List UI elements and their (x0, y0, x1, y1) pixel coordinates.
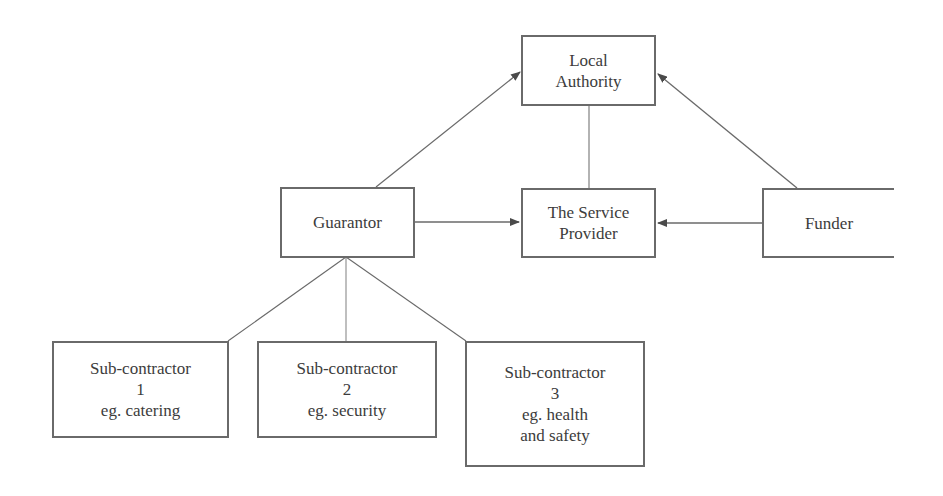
node-sub-contractor-1: Sub-contractor 1 eg. catering (52, 341, 229, 438)
node-label-line: Provider (559, 223, 618, 244)
node-label-line: Funder (805, 213, 853, 234)
edge-guarantor-to-local-authority (376, 72, 520, 187)
node-label-line: Authority (555, 71, 621, 92)
node-label-line: Local (569, 50, 608, 71)
node-label-line: Guarantor (313, 212, 382, 233)
node-service-provider: The Service Provider (521, 188, 656, 258)
node-label-line: eg. security (308, 400, 386, 421)
edge-funder-to-local-authority (658, 74, 797, 188)
node-label-line: 2 (343, 379, 352, 400)
node-label-line: 3 (551, 383, 560, 404)
edge-guarantor-to-sub1 (228, 257, 346, 341)
node-sub-contractor-3: Sub-contractor 3 eg. health and safety (465, 341, 645, 467)
node-label-line: Sub-contractor (296, 358, 397, 379)
node-funder: Funder (762, 188, 894, 258)
node-label-line: Sub-contractor (90, 358, 191, 379)
edge-guarantor-to-sub3 (346, 257, 466, 341)
node-label-line: Sub-contractor (504, 362, 605, 383)
node-label-line: 1 (136, 379, 145, 400)
node-label-line: eg. health (522, 404, 588, 425)
node-sub-contractor-2: Sub-contractor 2 eg. security (257, 341, 437, 438)
node-guarantor: Guarantor (280, 187, 415, 258)
node-label-line: eg. catering (101, 400, 180, 421)
node-label-line: and safety (520, 425, 589, 446)
node-local-authority: Local Authority (521, 35, 656, 106)
node-label-line: The Service (548, 202, 630, 223)
